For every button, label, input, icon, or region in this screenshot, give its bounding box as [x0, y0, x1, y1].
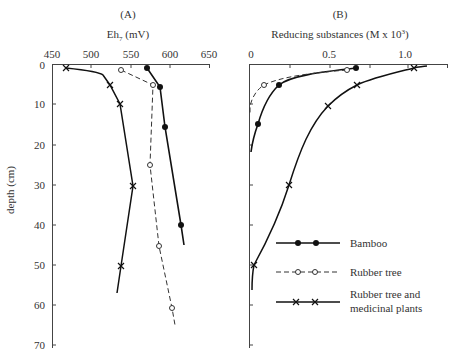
svg-text:60: 60	[34, 299, 46, 311]
series-a-rubber-tree	[119, 68, 176, 326]
legend: Bamboo Rubber tree Rubber tree and medic…	[276, 237, 422, 314]
svg-text:0.5: 0.5	[322, 48, 336, 60]
panel-b-xticks: 0 0.5 1.0	[248, 48, 412, 60]
panel-a: (A) Eh7 (mV) 450 500 550 600 650 0	[4, 8, 218, 351]
svg-text:450: 450	[44, 48, 61, 60]
svg-text:550: 550	[123, 48, 140, 60]
legend-item-rubber-tree: Rubber tree	[276, 266, 402, 278]
series-b-rubber-medicinal	[251, 65, 427, 290]
panel-b: (B) Reducing substances (M x 103) 0 0.5 …	[248, 8, 448, 348]
svg-text:Rubber tree and: Rubber tree and	[350, 288, 421, 300]
series-a-rubber-medicinal	[63, 65, 136, 293]
y-axis-label: depth (cm)	[4, 166, 17, 214]
y-tick-labels: 0 10 20 30 40 50 60 70	[34, 59, 46, 351]
svg-text:Bamboo: Bamboo	[350, 237, 388, 249]
svg-text:50: 50	[34, 259, 46, 271]
svg-text:0: 0	[40, 59, 46, 71]
legend-item-bamboo: Bamboo	[276, 237, 388, 249]
panel-a-xlabel: Eh7 (mV)	[107, 28, 150, 43]
panel-a-title: (A)	[120, 8, 136, 21]
svg-text:10: 10	[34, 98, 46, 110]
panel-b-title: (B)	[333, 8, 348, 21]
legend-item-rubber-medicinal: Rubber tree and medicinal plants	[276, 288, 422, 314]
svg-text:20: 20	[34, 139, 46, 151]
svg-text:0: 0	[248, 48, 254, 60]
panel-a-axes	[52, 64, 210, 348]
svg-text:650: 650	[201, 48, 218, 60]
svg-text:40: 40	[34, 219, 46, 231]
panel-b-xlabel: Reducing substances (M x 103)	[271, 28, 409, 41]
svg-text:1.0: 1.0	[398, 48, 412, 60]
svg-text:Rubber tree: Rubber tree	[350, 266, 402, 278]
panel-a-xticks: 450 500 550 600 650	[44, 48, 218, 60]
series-b-bamboo	[251, 65, 359, 152]
svg-text:500: 500	[83, 48, 100, 60]
figure: (A) Eh7 (mV) 450 500 550 600 650 0	[0, 0, 461, 359]
svg-text:600: 600	[162, 48, 179, 60]
svg-text:30: 30	[34, 179, 46, 191]
svg-text:medicinal plants: medicinal plants	[350, 302, 422, 314]
svg-text:70: 70	[34, 339, 46, 351]
